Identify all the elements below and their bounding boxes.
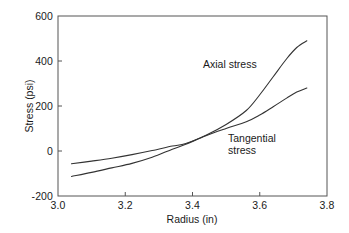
x-axis-label: Radius (in)	[167, 213, 218, 225]
y-axis-label: Stress (psi)	[23, 79, 35, 132]
axial-stress-annotation: Axial stress	[203, 58, 257, 70]
x-tick-label: 3.8	[320, 199, 335, 211]
tangential-stress-annotation: Tangential stress	[228, 132, 276, 156]
series-lines	[71, 41, 306, 177]
x-tick-label: 3.4	[185, 199, 200, 211]
x-tick-label: 3.6	[252, 199, 267, 211]
y-tick-label: 400	[18, 55, 53, 67]
y-tick-label: 600	[18, 10, 53, 22]
y-tick-label: 0	[18, 145, 53, 157]
x-tick-marks	[125, 192, 260, 196]
plot-frame	[58, 16, 327, 196]
x-tick-label: 3.0	[51, 199, 66, 211]
axes-frame	[58, 16, 327, 196]
stress-vs-radius-chart: -2000200400600 3.03.23.43.63.8 Stress (p…	[0, 0, 349, 233]
x-tick-label: 3.2	[118, 199, 133, 211]
y-tick-marks	[58, 61, 62, 151]
y-tick-label: -200	[18, 190, 53, 202]
